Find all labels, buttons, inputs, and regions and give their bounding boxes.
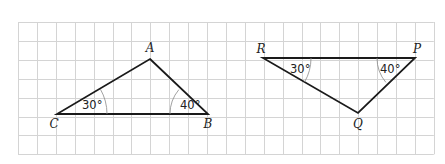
square-grid — [18, 22, 435, 155]
vertex-label-r: R — [255, 42, 265, 56]
vertex-label-a: A — [145, 41, 155, 55]
vertex-label-c: C — [49, 117, 58, 131]
vertex-label-q: Q — [353, 117, 363, 131]
angle-label-b: 40° — [180, 98, 200, 112]
angle-label-r: 30° — [290, 62, 310, 76]
angle-label-p: 40° — [380, 62, 400, 76]
angle-arc-b — [170, 90, 179, 114]
similar-triangles-diagram: A B C 30° 40° R P Q 30° 40° — [0, 0, 445, 164]
vertex-label-p: P — [412, 42, 422, 56]
angle-label-c: 30° — [82, 98, 102, 112]
vertex-label-b: B — [203, 117, 213, 131]
